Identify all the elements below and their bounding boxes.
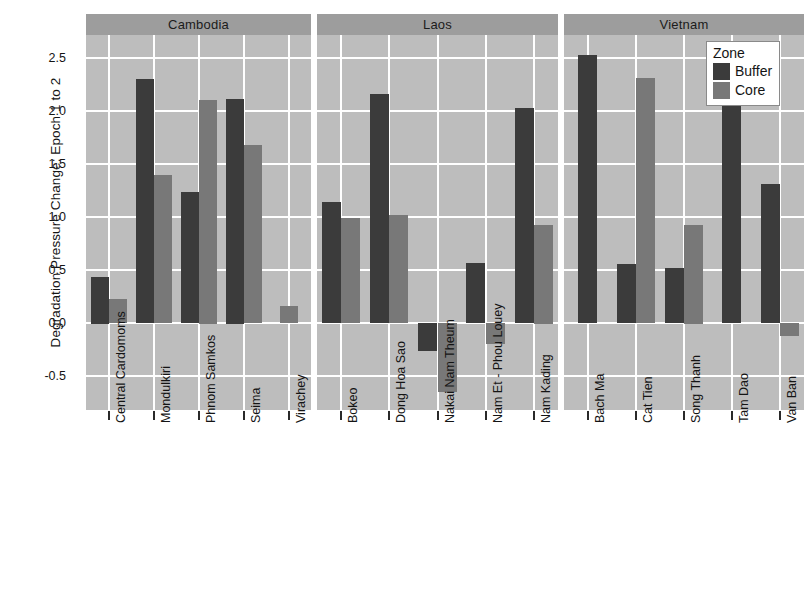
x-axis-tick-label: Nam Et - Phou Louey [491, 303, 505, 423]
gridline-vertical [108, 35, 110, 410]
x-axis-tick-label: Nakai Nam Theum [443, 319, 457, 423]
facet-strip-label: Vietnam [660, 17, 709, 32]
y-axis-tick-label: 1.5 [26, 157, 66, 171]
x-axis-tick-mark [683, 411, 685, 420]
bar[interactable] [722, 78, 741, 323]
bar[interactable] [199, 100, 217, 324]
x-axis-tick-label: Nam Kading [539, 354, 553, 423]
bar[interactable] [617, 264, 636, 323]
x-axis-tick-mark [198, 411, 200, 420]
x-axis-tick-label: Bach Ma [593, 374, 607, 423]
bar[interactable] [244, 145, 262, 323]
chart-figure: Degradation Pressure Change: Epoch 1 to … [0, 0, 804, 594]
y-axis-tick-label: 2.0 [26, 104, 66, 118]
plot-area [317, 35, 558, 410]
x-axis-tick-mark [533, 411, 535, 420]
bar[interactable] [341, 218, 360, 323]
legend-title: Zone [713, 45, 772, 62]
x-axis-tick-mark [635, 411, 637, 420]
x-axis-tick-mark [340, 411, 342, 420]
y-axis-tick-label: 2.5 [26, 51, 66, 65]
x-axis-tick-label: Cat Tien [641, 376, 655, 423]
x-axis-tick-mark [243, 411, 245, 420]
legend-item-core[interactable]: Core [713, 81, 772, 100]
bar[interactable] [226, 99, 244, 324]
x-axis-tick-label: Phnom Samkos [204, 335, 218, 423]
bar[interactable] [418, 323, 437, 351]
facet-strip: Vietnam [564, 14, 804, 35]
y-axis-tick-group: -0.50.00.51.01.52.02.5 [22, 0, 66, 594]
legend-swatch-buffer-icon [713, 63, 730, 80]
x-axis-tick-label: Virachey [294, 375, 308, 423]
bar[interactable] [534, 225, 553, 324]
y-axis-tick-label: 1.0 [26, 210, 66, 224]
y-axis-tick-label: 0.5 [26, 263, 66, 277]
x-axis-tick-label: Seima [249, 388, 263, 423]
bar[interactable] [389, 215, 408, 323]
bar[interactable] [280, 306, 298, 323]
x-axis-tick-mark [587, 411, 589, 420]
x-axis-tick-mark [485, 411, 487, 420]
x-axis-tick-mark [288, 411, 290, 420]
x-axis-tick-label: Central Cardomoms [114, 311, 128, 423]
bar[interactable] [181, 192, 199, 323]
x-axis-tick-label: Song Thanh [689, 355, 703, 423]
bar[interactable] [91, 277, 109, 324]
x-axis-tick-label: Bokeo [346, 388, 360, 423]
legend-label-buffer: Buffer [735, 63, 772, 80]
x-axis-tick-label: Tam Dao [737, 373, 751, 423]
x-axis-tick-mark [153, 411, 155, 420]
y-axis-tick-label: 0.0 [26, 316, 66, 330]
facet-strip-label: Laos [423, 17, 452, 32]
bar[interactable] [136, 79, 154, 323]
bar[interactable] [154, 175, 172, 323]
y-axis-tick-label: -0.5 [26, 369, 66, 383]
x-axis-tick-label: Dong Hoa Sao [394, 341, 408, 423]
gridline-vertical [485, 35, 487, 410]
x-axis-tick-mark [437, 411, 439, 420]
gridline-vertical [683, 35, 685, 410]
legend-item-buffer[interactable]: Buffer [713, 62, 772, 81]
x-axis-tick-mark [779, 411, 781, 420]
bar[interactable] [636, 78, 655, 323]
x-axis-tick-mark [108, 411, 110, 420]
x-axis-tick-mark [388, 411, 390, 420]
legend-swatch-core-icon [713, 82, 730, 99]
bar[interactable] [466, 263, 485, 323]
x-axis-tick-label: Van Ban [785, 376, 799, 423]
bar[interactable] [578, 55, 597, 323]
facet-strip: Cambodia [86, 14, 311, 35]
facet-strip-label: Cambodia [168, 17, 229, 32]
legend[interactable]: Zone Buffer Core [706, 41, 780, 106]
gridline-vertical [288, 35, 290, 410]
bar[interactable] [665, 268, 684, 323]
bar[interactable] [515, 108, 534, 323]
bar[interactable] [780, 323, 799, 336]
facet-strip: Laos [317, 14, 558, 35]
x-axis-tick-mark [731, 411, 733, 420]
legend-label-core: Core [735, 82, 765, 99]
bar[interactable] [322, 202, 341, 323]
bar[interactable] [761, 184, 780, 323]
bar[interactable] [684, 225, 703, 324]
bar[interactable] [370, 94, 389, 323]
x-axis-tick-label: Mondulkiri [159, 366, 173, 423]
